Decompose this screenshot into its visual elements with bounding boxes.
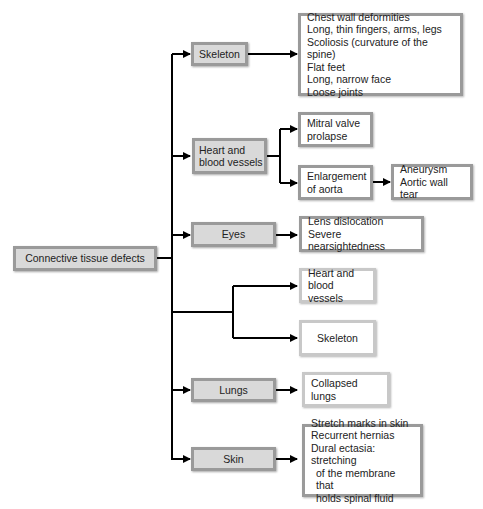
category-label: Skin	[223, 453, 243, 466]
category-heart: Heart and blood vessels	[192, 138, 267, 174]
mitral-valve-box: Mitral valve prolapse	[298, 112, 373, 147]
detail-line: Long, narrow face	[307, 73, 454, 86]
lungs-details: Collapsed lungs	[302, 372, 390, 407]
detail-line: prolapse	[307, 130, 360, 143]
heart-target-box: Heart and blood vessels	[299, 268, 376, 303]
category-label-line1: Heart and	[199, 144, 263, 157]
detail-line: holds spinal fluid	[311, 492, 414, 505]
detail-line: Loose joints	[307, 86, 454, 99]
eyes-details: Lens dislocation Severe nearsightedness	[299, 216, 424, 252]
detail-line: Chest wall deformities	[307, 11, 454, 24]
detail-line: Collapsed lungs	[311, 377, 381, 402]
skeleton-target-box: Skeleton	[299, 320, 376, 356]
category-skin: Skin	[191, 447, 276, 471]
detail-line: Recurrent hernias	[311, 429, 414, 442]
detail-line: Flat feet	[307, 61, 454, 74]
category-eyes: Eyes	[191, 222, 276, 247]
detail-line: Skeleton	[317, 332, 358, 345]
aneurysm-box: Aneurysm Aortic wall tear	[391, 164, 473, 200]
root-node: Connective tissue defects	[13, 246, 157, 271]
detail-line: Scoliosis (curvature of the spine)	[307, 36, 454, 61]
detail-line: Mitral valve	[307, 117, 360, 130]
detail-line: Lens dislocation	[308, 215, 415, 228]
skeleton-details: Chest wall deformities Long, thin finger…	[298, 13, 463, 96]
root-label: Connective tissue defects	[25, 252, 145, 265]
detail-line: Stretch marks in skin	[311, 417, 414, 430]
detail-line: Long, thin fingers, arms, legs	[307, 23, 454, 36]
detail-line: Aortic wall tear	[400, 176, 464, 201]
category-label: Lungs	[219, 384, 248, 397]
detail-line: of aorta	[307, 183, 367, 196]
detail-line: of the membrane that	[311, 467, 414, 492]
detail-line: Heart and	[308, 267, 367, 280]
category-label: Skeleton	[199, 48, 240, 61]
detail-line: Aneurysm	[400, 163, 464, 176]
detail-line: Enlargement	[307, 170, 367, 183]
category-label: Eyes	[222, 228, 245, 241]
enlargement-aorta-box: Enlargement of aorta	[298, 165, 373, 200]
category-skeleton: Skeleton	[191, 42, 248, 66]
detail-line: Dural ectasia: stretching	[311, 442, 414, 467]
skin-details: Stretch marks in skin Recurrent hernias …	[302, 424, 423, 497]
detail-line: blood vessels	[308, 279, 367, 304]
detail-line: Severe nearsightedness	[308, 228, 415, 253]
category-lungs: Lungs	[191, 378, 276, 402]
category-label-line2: blood vessels	[199, 156, 263, 169]
